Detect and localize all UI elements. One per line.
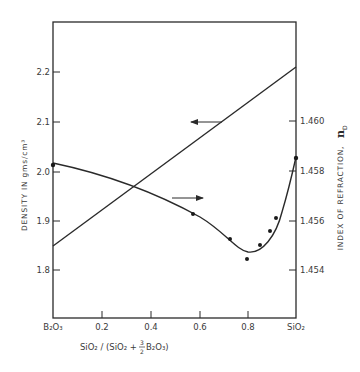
plot-frame [53,22,296,318]
x-axis-title-denominator: 2 [140,348,144,355]
right-axis-tick-labels: 1.460 1.458 1.456 1.454 [300,116,324,275]
data-point [268,229,272,233]
left-tick-1-9: 1.9 [36,216,50,226]
x-axis-title-tail: B₂O₃) [146,342,169,352]
data-point [274,216,278,220]
data-point [191,212,195,216]
right-tick-1-458: 1.458 [300,166,324,176]
y-right-axis-subscript: D [341,125,348,130]
right-tick-1-456: 1.456 [300,216,324,226]
left-tick-1-8: 1.8 [36,265,50,275]
data-point [51,163,55,167]
left-tick-2-1: 2.1 [36,117,50,127]
left-tick-2-2: 2.2 [36,67,50,77]
x-tick-0-2: 0.2 [95,322,109,332]
x-tick-sio2: SiO₂ [287,322,305,332]
left-axis-ticks [53,72,60,270]
x-axis-title: SiO₂ / (SiO₂ + 3 2 B₂O₃) [80,339,169,355]
refraction-curve [53,157,296,252]
x-tick-0-8: 0.8 [241,322,255,332]
y-right-axis-title-text: INDEX OF REFRACTION, [336,146,345,251]
x-axis-title-numerator: 3 [140,339,144,346]
right-axis-ticks [289,121,296,270]
data-point [228,237,232,241]
x-axis-ticks [102,311,248,318]
left-axis-tick-labels: 2.2 2.1 2.0 1.9 1.8 [36,67,50,275]
y-right-axis-title: INDEX OF REFRACTION, n D [334,125,348,250]
y-right-axis-symbol: n [334,130,347,138]
x-tick-0-4: 0.4 [144,322,158,332]
x-tick-0-6: 0.6 [193,322,207,332]
x-axis-tick-labels: B₂O₃ 0.2 0.4 0.6 0.8 SiO₂ [43,322,305,332]
x-axis-title-main: SiO₂ / (SiO₂ + [80,342,137,352]
data-point [294,156,298,160]
data-point [258,243,262,247]
data-point [245,257,249,261]
right-tick-1-454: 1.454 [300,265,324,275]
left-tick-2-0: 2.0 [36,167,50,177]
density-line [53,67,296,246]
chart-canvas: 2.2 2.1 2.0 1.9 1.8 1.460 1.458 1.456 1.… [0,0,360,372]
x-tick-b2o3: B₂O₃ [43,322,62,332]
y-left-axis-title: DENSITY IN gms/cm³ [20,139,29,231]
right-tick-1-460: 1.460 [300,116,324,126]
